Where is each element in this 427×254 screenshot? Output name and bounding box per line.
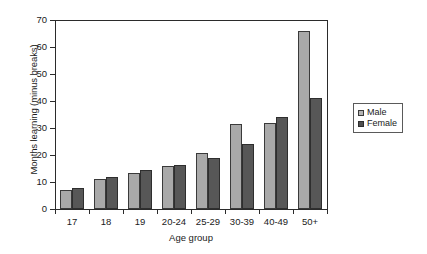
legend-swatch-male-icon	[358, 110, 364, 116]
legend-item-female[interactable]: Female	[358, 118, 397, 129]
bar-male-20-24	[162, 166, 174, 209]
x-tick-mark	[123, 209, 124, 214]
x-tick-mark	[157, 209, 158, 214]
bar-male-17	[60, 190, 72, 209]
y-tick-label: 40	[7, 95, 47, 106]
bar-female-18	[106, 177, 118, 209]
y-tick-label: 60	[7, 41, 47, 52]
bar-male-25-29	[196, 153, 208, 209]
bar-female-40-49	[276, 117, 288, 209]
legend-label: Female	[367, 118, 397, 129]
chart-legend: MaleFemale	[353, 103, 403, 133]
y-tick-label: 50	[7, 68, 47, 79]
x-axis-title: Age group	[55, 232, 327, 243]
y-tick-label: 70	[7, 14, 47, 25]
y-tick-label: 30	[7, 122, 47, 133]
x-tick-mark	[89, 209, 90, 214]
bar-male-30-39	[230, 124, 242, 209]
y-tick-label: 10	[7, 176, 47, 187]
x-tick-mark	[55, 209, 56, 214]
bar-female-19	[140, 170, 152, 209]
x-tick-mark	[191, 209, 192, 214]
bar-female-17	[72, 188, 84, 209]
x-tick-mark	[259, 209, 260, 214]
y-tick-label: 20	[7, 149, 47, 160]
bar-male-19	[128, 173, 140, 209]
bar-female-30-39	[242, 144, 254, 209]
legend-swatch-female-icon	[358, 121, 364, 127]
bar-female-20-24	[174, 165, 186, 209]
bar-chart: Months learning (minus breaks) 010203040…	[0, 0, 427, 254]
bar-female-25-29	[208, 158, 220, 209]
y-tick-label: 0	[7, 203, 47, 214]
bars-layer	[55, 20, 327, 209]
x-tick-mark	[225, 209, 226, 214]
x-tick-mark	[293, 209, 294, 214]
x-tick-mark	[327, 209, 328, 214]
bar-male-40-49	[264, 123, 276, 209]
x-tick-label: 50+	[290, 216, 330, 227]
bar-male-50plus	[298, 31, 310, 209]
legend-item-male[interactable]: Male	[358, 107, 397, 118]
bar-male-18	[94, 179, 106, 210]
legend-label: Male	[367, 107, 387, 118]
bar-female-50plus	[310, 98, 322, 209]
